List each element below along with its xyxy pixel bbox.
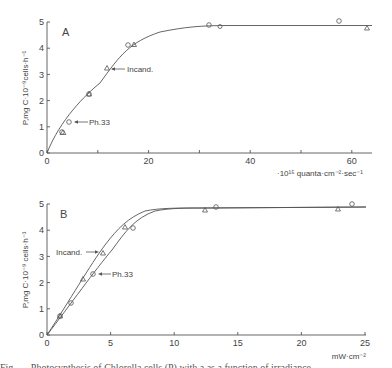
panel-b-annotation-ph33: Ph.33 [98,270,133,279]
panel-a-y-axis-label: P,mg C·10⁻⁹cells·h⁻¹ [21,50,30,125]
panel-b-ph33-points [58,202,355,319]
panel-a-ytick: 2 [39,96,44,106]
panel-b: 0 1 2 3 4 5 0 5 10 15 20 25 B mW·cm⁻² P,… [21,199,370,361]
svg-text:Incand.: Incand. [56,248,82,257]
panel-b-ph33-curve [47,207,366,335]
panel-a-x-axis-label: ·10¹⁵ quanta·cm⁻²·sec⁻¹ [277,169,363,178]
svg-text:Incand.: Incand. [127,65,153,74]
panel-a-ytick: 0 [39,148,44,158]
panel-b-xtick: 10 [169,338,179,348]
panel-b-ytick: 4 [39,225,44,235]
panel-a-xtick: 40 [245,156,255,166]
panel-b-xtick: 25 [360,338,370,348]
panel-a-xtick: 0 [44,156,49,166]
panel-b-ytick: 3 [39,252,44,262]
figure-caption: Fig. — Photosynthesis of Chlorella cells… [0,360,392,368]
panel-a-ytick: 4 [39,43,44,53]
panel-b-annotation-incand: Incand. [56,248,99,257]
panel-b-xtick: 0 [44,338,49,348]
panel-a-fit-curve [47,26,372,154]
panel-b-xtick: 15 [233,338,243,348]
panel-a: 0 1 2 3 4 5 0 20 40 60 A ·10¹⁵ quanta·cm… [21,17,372,178]
svg-text:Ph.33: Ph.33 [89,118,110,127]
panel-b-ytick: 2 [39,278,44,288]
panel-a-annotation-ph33: Ph.33 [74,118,110,127]
panel-b-xtick: 20 [296,338,306,348]
panel-b-xtick: 5 [108,338,113,348]
panel-b-ytick: 1 [39,304,44,314]
panel-a-xtick: 20 [144,156,154,166]
panel-b-label: B [60,208,67,220]
panel-a-ytick: 1 [39,122,44,132]
panel-b-incand-points [58,207,341,319]
panel-a-ph33-points [60,19,342,135]
figure: 0 1 2 3 4 5 0 20 40 60 A ·10¹⁵ quanta·cm… [0,0,392,368]
panel-b-ytick: 0 [39,330,44,340]
svg-text:Ph.33: Ph.33 [112,270,133,279]
panel-b-ytick: 5 [39,199,44,209]
panel-a-label: A [62,26,70,38]
panel-a-ytick: 3 [39,70,44,80]
panel-b-y-axis-label: P,mg C·10⁻⁹ cells·h⁻¹ [21,231,30,308]
panel-a-ytick: 5 [39,17,44,27]
panel-a-xtick: 60 [347,156,357,166]
panel-a-annotation-incand: Incand. [111,65,153,74]
